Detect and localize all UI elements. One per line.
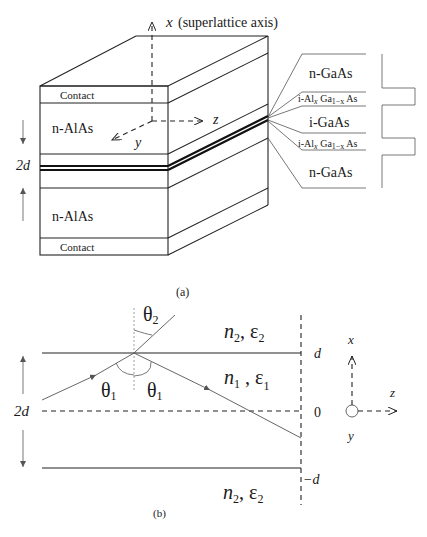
panel-a: x (superlattice axis) z y Contact n-AlAs… bbox=[16, 14, 415, 299]
caption-a: (a) bbox=[176, 285, 189, 299]
y-axis-label: y bbox=[133, 135, 142, 150]
theta2-arc bbox=[134, 330, 152, 335]
theta2-label: θ2 bbox=[143, 303, 159, 327]
period-label: 2d bbox=[16, 158, 31, 173]
y-axis-arrow bbox=[112, 121, 152, 140]
b-z-label: z bbox=[389, 385, 395, 400]
b-y-label: y bbox=[346, 428, 354, 443]
y-axis-out-of-page-icon bbox=[346, 405, 358, 417]
layer-label-i-gaas: i-GaAs bbox=[309, 115, 349, 130]
caption-b: (b) bbox=[153, 507, 166, 520]
x-axis-label: x bbox=[165, 14, 173, 30]
region-bottom-label: n2, ε2 bbox=[223, 481, 263, 506]
contact-bottom-label: Contact bbox=[60, 241, 94, 253]
layer-label-algaas-top: i-Alx Ga1−x As bbox=[298, 93, 358, 106]
incident-ray-arrow bbox=[42, 375, 96, 400]
alas-top-label: n-AlAs bbox=[52, 121, 93, 136]
tick-0: 0 bbox=[314, 405, 321, 420]
reflected-ray-arrow bbox=[134, 353, 210, 390]
theta1-arc-right bbox=[134, 362, 151, 376]
tick-d: d bbox=[314, 346, 322, 361]
incident-ray bbox=[96, 353, 134, 375]
layer-label-algaas-bottom: i-Alx Ga1−x As bbox=[298, 138, 358, 151]
x-axis-note: (superlattice axis) bbox=[178, 15, 278, 31]
layer-label-n-gaas-bottom: n-GaAs bbox=[309, 165, 353, 180]
theta1-label-left: θ1 bbox=[101, 379, 117, 403]
theta1-label-right: θ1 bbox=[147, 379, 163, 403]
reflected-ray bbox=[210, 390, 301, 438]
band-profile bbox=[382, 54, 415, 188]
z-axis-label: z bbox=[212, 112, 219, 127]
layer-label-n-gaas-top: n-GaAs bbox=[309, 66, 353, 81]
alas-bottom-label: n-AlAs bbox=[52, 209, 93, 224]
width-label: 2d bbox=[14, 403, 30, 419]
box-top-face bbox=[40, 36, 268, 86]
side-layer-lines bbox=[168, 53, 268, 238]
b-x-label: x bbox=[347, 332, 354, 347]
theta1-arc-left bbox=[116, 363, 134, 375]
region-top-label: n2, ε2 bbox=[224, 320, 264, 345]
tick-minus-d: −d bbox=[303, 472, 320, 487]
region-mid-label: n1 , ε1 bbox=[224, 366, 269, 393]
contact-top-label: Contact bbox=[60, 89, 94, 101]
panel-b: θ2 θ1 θ1 n2, ε2 n1 , ε1 n2, ε2 2d d 0 −d… bbox=[14, 303, 397, 520]
figure: x (superlattice axis) z y Contact n-AlAs… bbox=[0, 0, 427, 537]
